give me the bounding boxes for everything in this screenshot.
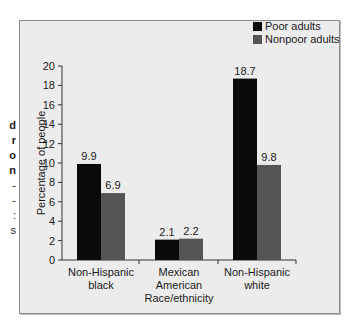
y-tick-label: 20: [43, 60, 55, 72]
y-tick-label: 8: [49, 176, 55, 188]
legend-label: Nonpoor adults: [265, 33, 340, 45]
y-tick-label: 6: [49, 196, 55, 208]
category-label: black: [88, 279, 114, 291]
bar-nonpoor-adults: [101, 193, 125, 260]
legend: Poor adultsNonpoor adults: [253, 20, 340, 45]
bars: 9.96.92.12.218.79.8: [77, 65, 281, 260]
legend-label: Poor adults: [265, 20, 321, 32]
category-label: Non-Hispanic: [224, 266, 291, 278]
bar-poor-adults: [77, 164, 101, 260]
y-tick-label: 2: [49, 235, 55, 247]
bar-value-label: 18.7: [234, 65, 255, 77]
bar-value-label: 2.1: [159, 226, 174, 238]
legend-swatch: [253, 35, 262, 44]
y-tick-label: 16: [43, 99, 55, 111]
bar-chart: Poor adultsNonpoor adults 02468101214161…: [0, 0, 356, 333]
x-axis: Non-HispanicblackMexicanAmericanNon-Hisp…: [62, 260, 296, 291]
y-tick-label: 18: [43, 79, 55, 91]
y-tick-label: 0: [49, 254, 55, 266]
bar-poor-adults: [233, 79, 257, 260]
category-label: white: [243, 279, 270, 291]
category-label: Mexican: [159, 266, 200, 278]
category-label: American: [156, 279, 202, 291]
bar-nonpoor-adults: [179, 239, 203, 260]
bar-value-label: 2.2: [183, 225, 198, 237]
x-axis-label: Race/ethnicity: [144, 292, 214, 304]
bar-value-label: 6.9: [105, 179, 120, 191]
legend-swatch: [253, 22, 262, 31]
y-tick-label: 4: [49, 215, 55, 227]
category-label: Non-Hispanic: [68, 266, 135, 278]
bar-nonpoor-adults: [257, 165, 281, 260]
bar-poor-adults: [155, 240, 179, 260]
bar-value-label: 9.8: [261, 151, 276, 163]
bar-value-label: 9.9: [81, 150, 96, 162]
y-axis-label: Percentage of people: [35, 111, 47, 216]
